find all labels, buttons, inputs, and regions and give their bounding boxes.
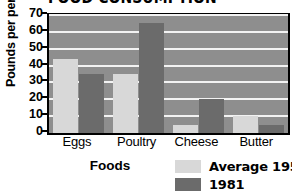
bar bbox=[173, 125, 198, 133]
legend-swatch bbox=[175, 178, 201, 191]
y-axis-tick-label: 10 bbox=[3, 109, 43, 119]
y-axis-tick-label: 60 bbox=[3, 25, 43, 35]
y-axis-tick-label: 50 bbox=[3, 42, 43, 52]
bar-series-group bbox=[49, 15, 288, 133]
chart-title: FOOD CONSUMPTION bbox=[48, 0, 234, 6]
bar bbox=[259, 125, 284, 133]
bar bbox=[139, 23, 164, 133]
y-axis-tick-label: 30 bbox=[3, 75, 43, 85]
bar bbox=[113, 74, 138, 133]
legend-label: Average 1957–59 bbox=[209, 159, 292, 174]
x-axis-title: Foods bbox=[55, 158, 165, 173]
y-axis-tick-label: 20 bbox=[3, 92, 43, 102]
bar bbox=[79, 74, 104, 133]
bar bbox=[199, 99, 224, 133]
plot-area bbox=[47, 13, 290, 135]
legend-item: 1981 bbox=[175, 176, 292, 192]
y-axis-tick-label: 40 bbox=[3, 59, 43, 69]
x-axis-category-label: Butter bbox=[216, 134, 292, 149]
legend-swatch bbox=[175, 160, 201, 173]
chart-figure: FOOD CONSUMPTION Pounds per person (year… bbox=[0, 0, 292, 192]
chart-legend: Average 1957–591981 bbox=[175, 158, 292, 192]
legend-label: 1981 bbox=[209, 177, 244, 192]
bar bbox=[53, 59, 78, 133]
bar bbox=[233, 116, 258, 133]
legend-item: Average 1957–59 bbox=[175, 158, 292, 174]
y-axis-tick-label: 70 bbox=[3, 8, 43, 18]
